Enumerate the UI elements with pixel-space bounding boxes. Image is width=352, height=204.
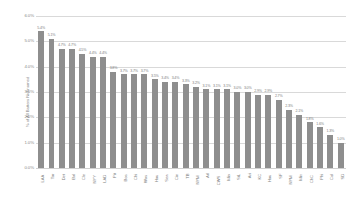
bar[interactable]: [307, 122, 313, 168]
x-axis-label-slot: Was: [139, 170, 149, 200]
x-axis-label-slot: Cle: [77, 170, 87, 200]
x-axis-tick-label: Atl: [206, 173, 210, 178]
bar[interactable]: [286, 110, 292, 168]
x-axis-label-slot: LAA: [36, 170, 46, 200]
bar[interactable]: [79, 54, 85, 168]
x-axis-tick-label: LAA: [41, 175, 45, 183]
bar[interactable]: [69, 49, 75, 168]
x-axis-tick-label: Tor: [51, 174, 55, 180]
x-axis-tick-label: Col: [330, 174, 334, 180]
x-axis-labels: LAATorDetBalCleNYYLADPitBosChiWasHouSeaC…: [36, 170, 346, 200]
bar-slot: 1.6%: [315, 16, 325, 168]
x-axis-tick-label: Mia: [227, 174, 231, 180]
bar[interactable]: [38, 31, 44, 168]
bar[interactable]: [172, 82, 178, 168]
x-axis-tick-label: LAD: [103, 175, 107, 183]
bar-slot: 2.1%: [294, 16, 304, 168]
x-axis-label-slot: Sea: [160, 170, 170, 200]
y-axis-tick-label: 5.0%: [2, 39, 34, 43]
bar[interactable]: [90, 57, 96, 168]
bar-value-label: 4.4%: [99, 52, 107, 56]
x-axis-tick-label: Hou: [155, 175, 159, 182]
bar[interactable]: [327, 135, 333, 168]
x-axis-label-slot: Min: [294, 170, 304, 200]
bar[interactable]: [49, 39, 55, 168]
x-axis-tick-label: Hou: [268, 175, 272, 182]
plot-area: 5.4%5.1%4.7%4.7%4.5%4.4%4.4%3.8%3.7%3.7%…: [36, 16, 346, 168]
y-axis-tick-label: 2.0%: [2, 115, 34, 119]
bar-value-label: 2.7%: [275, 95, 283, 99]
y-axis-tick-label: 6.0%: [2, 14, 34, 18]
bar[interactable]: [214, 89, 220, 168]
bar-slot: 1.0%: [336, 16, 346, 168]
x-axis-label-slot: TB: [181, 170, 191, 200]
bar[interactable]: [121, 74, 127, 168]
bar[interactable]: [224, 89, 230, 168]
bar-slot: 2.7%: [274, 16, 284, 168]
x-axis-label-slot: Ari: [243, 170, 253, 200]
bar-slot: 3.1%: [222, 16, 232, 168]
x-axis-label-slot: Mia: [222, 170, 232, 200]
bar[interactable]: [110, 72, 116, 168]
bar[interactable]: [296, 115, 302, 168]
bar[interactable]: [59, 49, 65, 168]
x-axis-label-slot: Bal: [67, 170, 77, 200]
bar[interactable]: [152, 79, 158, 168]
bar-value-label: 3.0%: [234, 87, 242, 91]
bar-slot: 3.2%: [191, 16, 201, 168]
bar-slot: 3.1%: [201, 16, 211, 168]
bar-slot: 4.5%: [77, 16, 87, 168]
bar[interactable]: [338, 143, 344, 168]
bar-slot: 3.7%: [119, 16, 129, 168]
x-axis-label-slot: Chi: [129, 170, 139, 200]
x-axis-tick-label: Bal: [72, 174, 76, 180]
x-axis-tick-label: NYY: [93, 175, 97, 183]
x-axis-tick-label: SF: [279, 174, 283, 179]
x-axis-tick-label: Det: [62, 174, 66, 180]
x-axis-label-slot: ChC: [305, 170, 315, 200]
bar[interactable]: [255, 95, 261, 168]
x-axis-tick-label: Min: [299, 174, 303, 180]
x-axis-label-slot: SD: [336, 170, 346, 200]
x-axis-line: [36, 168, 346, 169]
bar[interactable]: [193, 87, 199, 168]
bar[interactable]: [131, 74, 137, 168]
x-axis-label-slot: Pit: [108, 170, 118, 200]
bar[interactable]: [100, 57, 106, 168]
bar[interactable]: [141, 74, 147, 168]
bar[interactable]: [234, 92, 240, 168]
y-axis-tick-label: 3.0%: [2, 90, 34, 94]
bar[interactable]: [183, 84, 189, 168]
x-axis-tick-label: Chi: [134, 174, 138, 180]
x-axis-label-slot: KC: [253, 170, 263, 200]
x-axis-tick-label: SD: [341, 174, 345, 180]
bar-slot: 3.5%: [150, 16, 160, 168]
bar[interactable]: [265, 95, 271, 168]
bar-slot: 2.9%: [253, 16, 263, 168]
bar-slot: 5.4%: [36, 16, 46, 168]
x-axis-label-slot: SF: [274, 170, 284, 200]
bar-value-label: 2.1%: [296, 110, 304, 114]
bar-value-label: 3.2%: [192, 82, 200, 86]
bar-value-label: 2.9%: [265, 90, 273, 94]
x-axis-label-slot: Col: [325, 170, 335, 200]
x-axis-tick-label: Sea: [165, 175, 169, 182]
bar[interactable]: [203, 89, 209, 168]
y-axis-tick-label: 1.0%: [2, 141, 34, 145]
bar-value-label: 4.7%: [68, 44, 76, 48]
bar[interactable]: [162, 82, 168, 168]
bar-slot: 1.8%: [305, 16, 315, 168]
x-axis-label-slot: Phi: [315, 170, 325, 200]
bar[interactable]: [245, 92, 251, 168]
bar-value-label: 1.3%: [327, 130, 335, 134]
bar-value-label: 3.4%: [161, 77, 169, 81]
bar-value-label: 4.4%: [89, 52, 97, 56]
bar-slot: 3.8%: [108, 16, 118, 168]
x-axis-tick-label: Phi: [320, 174, 324, 180]
bar[interactable]: [317, 127, 323, 168]
y-axis-tick-label: 0.0%: [2, 166, 34, 170]
bar[interactable]: [276, 100, 282, 168]
x-axis-label-slot: Atl: [201, 170, 211, 200]
x-axis-label-slot: Bos: [119, 170, 129, 200]
bar-value-label: 4.5%: [79, 49, 87, 53]
